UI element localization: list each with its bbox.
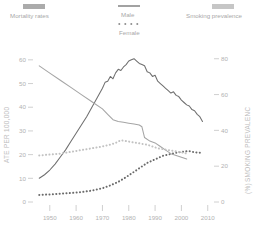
chart-legend: Mortality ratesSmoking prevalenceMaleFem… (10, 4, 243, 36)
left-axis-tick-label: 20 (19, 151, 26, 158)
series-female-mortality (39, 151, 202, 195)
chart-axes: 0102030405060ATE PER 100,000020406080SMO… (3, 55, 252, 221)
legend-swatch-smoking (212, 4, 234, 9)
left-axis-tick-label: 30 (19, 127, 26, 134)
right-axis-tick-label: 40 (221, 127, 228, 134)
right-axis-tick-label: 80 (221, 55, 228, 62)
legend-label-female: Female (119, 29, 140, 36)
right-axis-tick-label: 0 (221, 198, 225, 205)
series-male-mortality (39, 59, 202, 179)
bottom-axis-tick-label: 2000 (175, 214, 189, 221)
bottom-axis-tick-label: 1980 (122, 214, 136, 221)
right-axis-title-unit: (%) (244, 183, 252, 194)
right-axis-tick-label: 20 (221, 162, 228, 169)
left-axis-tick-label: 40 (19, 103, 26, 110)
legend-swatch-mortality (23, 4, 45, 9)
left-axis-tick-label: 0 (23, 198, 27, 205)
right-axis-title: SMOKING PREVALENC (244, 107, 251, 182)
right-axis-tick-label: 60 (221, 91, 228, 98)
bottom-axis-tick-label: 2010 (201, 214, 215, 221)
bottom-axis-tick-label: 1990 (148, 214, 162, 221)
chart-container: Mortality ratesSmoking prevalenceMaleFem… (0, 0, 258, 228)
bottom-axis-tick-label: 1960 (69, 214, 83, 221)
series-female-prevalence (39, 140, 186, 155)
left-axis-tick-label: 50 (19, 80, 26, 87)
left-axis-tick-label: 60 (19, 56, 26, 63)
chart-series-group (39, 59, 202, 195)
legend-label-mortality: Mortality rates (10, 12, 49, 19)
bottom-axis-tick-label: 1970 (96, 214, 110, 221)
legend-label-male: Male (121, 11, 135, 18)
left-axis-title: ATE PER 100,000 (3, 107, 10, 163)
legend-label-smoking: Smoking prevalence (186, 12, 243, 19)
left-axis-tick-label: 10 (19, 175, 26, 182)
bottom-axis-tick-label: 1950 (43, 214, 57, 221)
mortality-smoking-chart: Mortality ratesSmoking prevalenceMaleFem… (0, 0, 258, 228)
series-male-prevalence (39, 66, 186, 159)
